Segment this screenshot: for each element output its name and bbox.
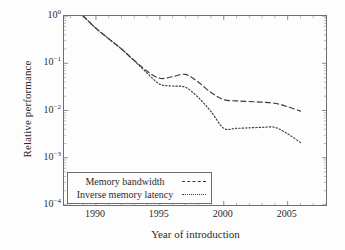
x-tick-label: 2000 (203, 209, 243, 219)
y-tick-label: 100 (48, 10, 62, 20)
series-line (83, 16, 300, 143)
y-tick-label: 10−3 (44, 152, 61, 162)
x-tick-label: 1995 (139, 209, 179, 219)
legend-label: Inverse memory latency (73, 189, 182, 200)
x-tick-label: 1990 (75, 209, 115, 219)
x-tick-label: 2005 (267, 209, 307, 219)
series-line (83, 16, 300, 111)
chart-figure: Relative performance Year of introductio… (0, 0, 345, 250)
legend-label: Memory bandwidth (73, 176, 182, 187)
legend-item-inverse-memory-latency: Inverse memory latency (73, 188, 206, 201)
y-tick-label: 10−2 (44, 105, 61, 115)
y-tick-label: 10−4 (44, 199, 61, 209)
legend-line-dotted-icon (182, 194, 206, 196)
y-tick-label: 10−1 (44, 57, 61, 67)
y-axis-title: Relative performance (21, 19, 33, 199)
chart-legend: Memory bandwidth Inverse memory latency (67, 172, 212, 204)
legend-item-memory-bandwidth: Memory bandwidth (73, 175, 206, 188)
legend-line-dashed-icon (182, 181, 206, 183)
x-axis-title: Year of introduction (63, 228, 328, 240)
